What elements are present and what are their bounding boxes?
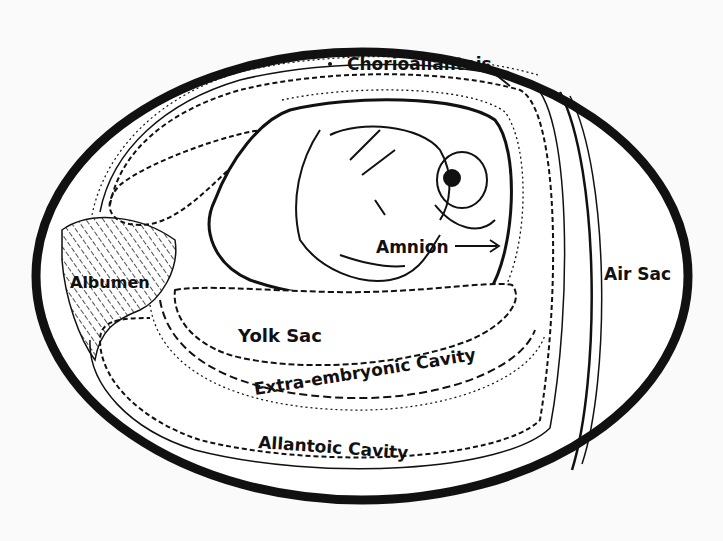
label-chorioallantois: Chorioallantois <box>347 54 492 74</box>
label-yolk-sac: Yolk Sac <box>237 325 322 346</box>
label-albumen: Albumen <box>70 273 150 292</box>
label-amnion: Amnion <box>376 237 449 257</box>
label-air-sac: Air Sac <box>604 264 671 284</box>
egg-diagram: Chorioallantois Amnion Albumen Air Sac Y… <box>0 0 723 541</box>
